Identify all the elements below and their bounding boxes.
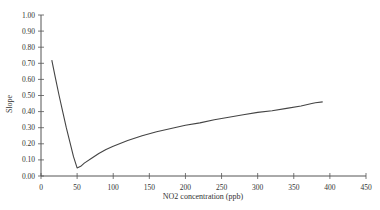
x-axis-title: NO2 concentration (ppb) [163,192,244,201]
x-tick-label: 0 [39,183,43,192]
x-tick-label: 200 [180,183,192,192]
x-tick-label: 300 [252,183,264,192]
y-tick-label: 0.40 [22,107,35,116]
y-axis: 0.000.100.200.300.400.500.600.700.800.90… [22,11,44,181]
x-tick-label: 250 [216,183,228,192]
y-tick-label: 0.10 [22,155,35,164]
x-tick-label: 150 [144,183,156,192]
x-tick-label: 100 [108,183,120,192]
y-tick-label: 0.60 [22,75,35,84]
x-tick-label: 450 [360,183,372,192]
y-tick-label: 0.90 [22,27,35,36]
y-tick-label: 0.00 [22,172,35,181]
y-tick-label: 0.20 [22,139,35,148]
x-tick-label: 350 [288,183,300,192]
y-tick-label: 0.30 [22,123,35,132]
x-tick-label: 50 [73,183,81,192]
plot-area [52,60,323,168]
x-axis: 050100150200250300350400450 [39,173,372,192]
y-tick-label: 0.70 [22,59,35,68]
series-line-slope [52,60,323,168]
y-tick-label: 0.80 [22,43,35,52]
y-tick-label: 1.00 [22,11,35,20]
x-tick-label: 400 [324,183,336,192]
y-tick-label: 0.50 [22,91,35,100]
y-axis-title: Slope [5,94,14,113]
line-chart: 0.000.100.200.300.400.500.600.700.800.90… [0,0,380,210]
